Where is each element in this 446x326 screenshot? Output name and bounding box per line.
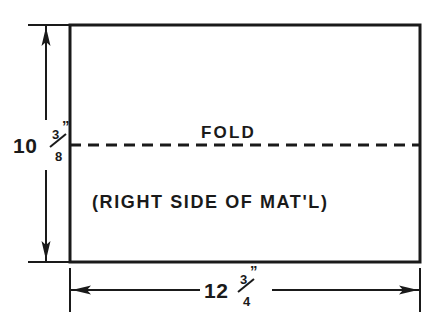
width-dimension: 12 3 4 ” bbox=[70, 262, 420, 312]
width-whole-number: 12 bbox=[204, 279, 228, 302]
fold-label: FOLD bbox=[201, 123, 256, 142]
material-side-label: (RIGHT SIDE OF MAT'L) bbox=[92, 192, 329, 212]
width-dimension-value: 12 3 4 ” bbox=[204, 262, 258, 309]
height-whole-number: 10 bbox=[13, 134, 37, 157]
fold-layout-diagram: FOLD (RIGHT SIDE OF MAT'L) 10 3 8 ” bbox=[0, 0, 446, 326]
height-fraction-denominator: 8 bbox=[55, 149, 62, 164]
height-inch-mark: ” bbox=[62, 117, 70, 134]
width-fraction-denominator: 4 bbox=[243, 294, 251, 309]
height-dimension: 10 3 8 ” bbox=[13, 25, 78, 262]
height-dimension-value: 10 3 8 ” bbox=[13, 117, 70, 164]
width-inch-mark: ” bbox=[250, 262, 258, 279]
